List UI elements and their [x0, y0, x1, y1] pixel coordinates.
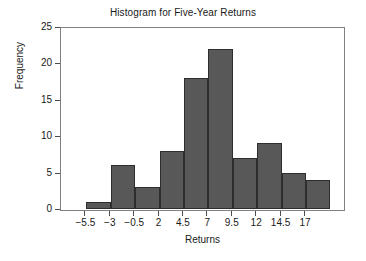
histogram-bar: [306, 180, 330, 209]
y-tick-label: 5: [46, 167, 52, 178]
y-tick-label: 10: [41, 130, 52, 141]
histogram-bar: [86, 202, 110, 209]
x-tick-label: 14.5: [271, 217, 290, 228]
x-tick-mark: [206, 211, 207, 216]
x-tick-label: −0.5: [124, 217, 144, 228]
histogram-bar: [135, 187, 159, 209]
x-tick-label: −3: [104, 217, 115, 228]
bar-series: [62, 29, 343, 209]
x-axis-title: Returns: [60, 234, 345, 245]
x-tick-mark: [133, 211, 134, 216]
x-tick-label: 4.5: [176, 217, 190, 228]
x-tick-mark: [231, 211, 232, 216]
x-tick-label: 7: [205, 217, 211, 228]
x-tick-mark: [84, 211, 85, 216]
y-tick-label: 25: [41, 21, 52, 32]
histogram-figure: Histogram for Five-Year Returns Frequenc…: [0, 0, 366, 261]
x-tick-mark: [158, 211, 159, 216]
y-tick-label: 0: [46, 203, 52, 214]
x-tick-label: 9.5: [225, 217, 239, 228]
x-tick-label: 17: [299, 217, 310, 228]
histogram-bar: [208, 49, 232, 209]
x-tick-label: 12: [251, 217, 262, 228]
histogram-bar: [160, 151, 184, 209]
histogram-bar: [111, 165, 135, 209]
x-tick-mark: [280, 211, 281, 216]
x-tick-mark: [304, 211, 305, 216]
histogram-bar: [184, 78, 208, 209]
x-tick-label: −5.5: [76, 217, 96, 228]
y-tick-label: 15: [41, 94, 52, 105]
y-tick-label: 20: [41, 57, 52, 68]
x-tick-mark: [255, 211, 256, 216]
chart-title: Histogram for Five-Year Returns: [0, 7, 366, 18]
y-axis-ticks: 0510152025: [0, 27, 60, 211]
histogram-bar: [282, 173, 306, 209]
plot-area: [60, 27, 345, 211]
x-tick-label: 2: [156, 217, 162, 228]
x-tick-mark: [182, 211, 183, 216]
histogram-bar: [257, 143, 281, 209]
histogram-bar: [233, 158, 257, 209]
x-tick-mark: [109, 211, 110, 216]
